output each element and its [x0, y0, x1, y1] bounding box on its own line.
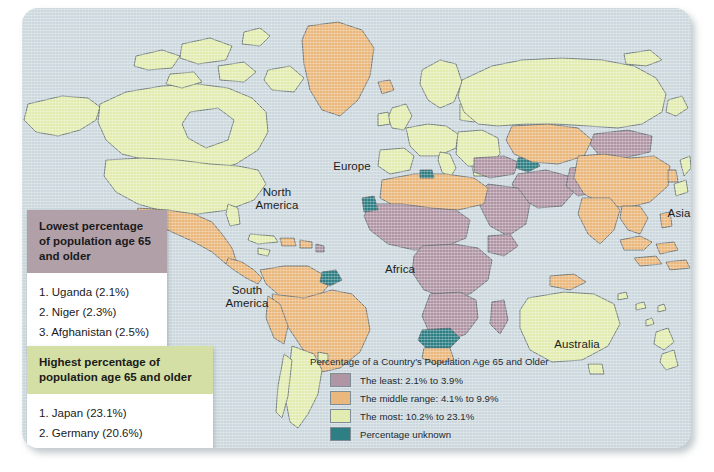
region-greenland — [302, 22, 394, 116]
continent-label-africa: Africa — [370, 263, 430, 276]
legend-label-least: The least: 2.1% to 3.9% — [360, 375, 463, 386]
legend-row-middle: The middle range: 4.1% to 9.9% — [308, 391, 598, 405]
legend-swatch-least — [330, 373, 351, 387]
list-item: 3. Italy (20.3%) — [39, 443, 202, 448]
legend-label-most: The most: 10.2% to 23.1% — [360, 411, 474, 422]
world-map-panel: .ld{fill:#b096a5;} /* least */ .md{fill:… — [22, 8, 691, 448]
continent-label-australia: Australia — [542, 338, 612, 351]
highest-percentage-box: Highest percentage of population age 65 … — [27, 346, 213, 448]
legend-swatch-most — [330, 409, 351, 423]
continent-label-south-america: South America — [207, 284, 287, 310]
list-item: 1. Japan (23.1%) — [39, 403, 202, 423]
legend-swatch-unknown — [330, 427, 351, 441]
lowest-percentage-box: Lowest percentage of population age 65 a… — [27, 210, 167, 353]
highest-percentage-header: Highest percentage of population age 65 … — [27, 346, 213, 394]
continent-label-asia: Asia — [654, 207, 691, 220]
legend-row-most: The most: 10.2% to 23.1% — [308, 409, 598, 423]
legend-row-unknown: Percentage unknown — [308, 427, 598, 441]
legend-swatch-middle — [330, 391, 351, 405]
highest-percentage-list: 1. Japan (23.1%) 2. Germany (20.6%) 3. I… — [27, 394, 213, 448]
legend-label-middle: The middle range: 4.1% to 9.9% — [360, 393, 499, 404]
list-item: 2. Germany (20.6%) — [39, 423, 202, 443]
lowest-percentage-list: 1. Uganda (2.1%) 2. Niger (2.3%) 3. Afgh… — [27, 273, 167, 353]
list-item: 3. Afghanistan (2.5%) — [39, 322, 156, 342]
continent-label-europe: Europe — [322, 160, 382, 173]
legend-row-least: The least: 2.1% to 3.9% — [308, 373, 598, 387]
legend-label-unknown: Percentage unknown — [360, 429, 451, 440]
map-legend: Percentage of a Country's Population Age… — [308, 356, 598, 445]
list-item: 1. Uganda (2.1%) — [39, 282, 156, 302]
region-pacific-islands — [618, 292, 666, 326]
region-russia — [458, 50, 688, 128]
list-item: 2. Niger (2.3%) — [39, 302, 156, 322]
continent-label-north-america: North America — [237, 186, 317, 212]
legend-title: Percentage of a Country's Population Age… — [310, 356, 598, 367]
lowest-percentage-header: Lowest percentage of population age 65 a… — [27, 210, 167, 273]
